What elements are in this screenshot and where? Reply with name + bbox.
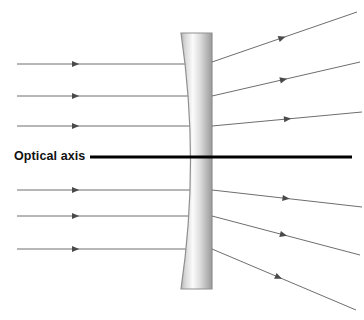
outgoing-ray-arrowhead bbox=[274, 273, 283, 282]
incoming-ray-arrowhead bbox=[72, 123, 79, 129]
outgoing-ray-arrowhead bbox=[278, 34, 287, 42]
outgoing-ray-arrowhead bbox=[284, 116, 292, 123]
outgoing-ray-arrowhead bbox=[279, 231, 288, 239]
incoming-ray-arrowhead bbox=[72, 246, 79, 252]
optical-axis-label: Optical axis bbox=[14, 149, 85, 163]
optics-diagram-canvas: Optical axis bbox=[0, 0, 364, 320]
outgoing-diverging-rays bbox=[212, 12, 362, 310]
diverging-lens bbox=[181, 33, 212, 289]
outgoing-ray-arrowhead bbox=[279, 76, 287, 84]
outgoing-ray-arrowhead bbox=[282, 195, 290, 202]
incoming-ray-arrowhead bbox=[72, 61, 79, 67]
incoming-ray-arrowhead bbox=[72, 93, 79, 99]
lens-body bbox=[181, 33, 212, 289]
incoming-ray-arrowhead bbox=[72, 187, 79, 193]
outgoing-ray bbox=[212, 249, 356, 310]
incoming-ray-arrowhead bbox=[72, 213, 79, 219]
